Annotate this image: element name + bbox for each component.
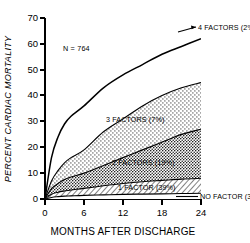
label-no-factor: NO FACTOR (33%): [200, 192, 250, 201]
chart-canvas: PERCENT CARDIAC MORTALITY 0 10 20 30 40 …: [0, 0, 250, 243]
x-tick-labels: 0 6 12 18 24: [42, 207, 206, 218]
y-axis-title: PERCENT CARDIAC MORTALITY: [3, 35, 13, 182]
sample-size-label: N = 764: [63, 44, 90, 53]
y-tick-60: 60: [27, 38, 38, 49]
x-tick-24: 24: [196, 207, 207, 218]
x-tick-marks: [45, 199, 201, 205]
x-tick-18: 18: [157, 207, 168, 218]
y-tick-20: 20: [27, 141, 38, 152]
y-tick-50: 50: [27, 64, 38, 75]
four-factors-arrow-icon: [191, 25, 196, 29]
label-4-factors: 4 FACTORS (2%): [198, 23, 250, 32]
x-tick-0: 0: [42, 207, 47, 218]
label-1-factor: 1 FACTOR (39%): [118, 183, 176, 192]
y-tick-40: 40: [27, 89, 38, 100]
y-tick-labels: 0 10 20 30 40 50 60 70: [27, 12, 38, 204]
label-3-factors: 3 FACTORS (7%): [106, 115, 164, 124]
y-tick-0: 0: [33, 193, 38, 204]
cardiac-mortality-chart: PERCENT CARDIAC MORTALITY 0 10 20 30 40 …: [0, 0, 250, 243]
y-tick-30: 30: [27, 115, 38, 126]
x-tick-12: 12: [118, 207, 129, 218]
label-2-factors: 2 FACTORS (19%): [112, 158, 174, 167]
x-axis-title: MONTHS AFTER DISCHARGE: [51, 226, 196, 237]
y-tick-marks: [40, 18, 45, 199]
x-tick-6: 6: [81, 207, 86, 218]
y-tick-70: 70: [27, 12, 38, 23]
y-tick-10: 10: [27, 167, 38, 178]
